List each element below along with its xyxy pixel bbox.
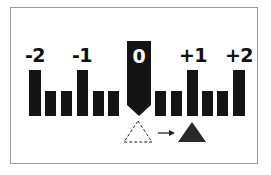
right-arrow-icon [158,130,175,136]
indicator-graphic [0,0,271,175]
dashed-triangle-icon [124,121,152,142]
filled-triangle-icon [178,122,206,142]
